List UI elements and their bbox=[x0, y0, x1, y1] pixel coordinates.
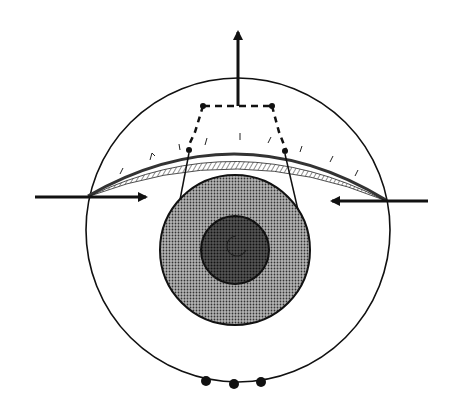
pupil bbox=[201, 216, 269, 284]
eye-diagram bbox=[0, 0, 460, 409]
suture-dots bbox=[201, 376, 266, 389]
